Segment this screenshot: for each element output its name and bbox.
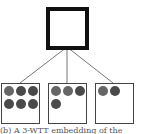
dot-group — [51, 86, 87, 109]
dot-icon — [28, 99, 38, 109]
dot-icon — [4, 99, 14, 109]
figure-caption: (b) A 3-WTT embedding of the — [0, 126, 141, 134]
dot-icon — [4, 86, 14, 96]
child-node-3 — [95, 83, 134, 124]
edge-left — [20, 47, 67, 83]
dot-icon — [51, 99, 61, 109]
dot-icon — [75, 86, 85, 96]
edge-right — [67, 47, 113, 83]
dot-group — [98, 86, 134, 96]
dot-icon — [16, 99, 26, 109]
dot-icon — [98, 86, 108, 96]
child-node-2 — [48, 83, 87, 124]
dot-icon — [16, 86, 26, 96]
dot-group — [4, 86, 40, 109]
dot-icon — [28, 86, 38, 96]
dot-icon — [63, 86, 73, 96]
dot-icon — [51, 86, 61, 96]
root-node — [46, 7, 89, 50]
child-node-1 — [1, 83, 40, 124]
dot-icon — [110, 86, 120, 96]
